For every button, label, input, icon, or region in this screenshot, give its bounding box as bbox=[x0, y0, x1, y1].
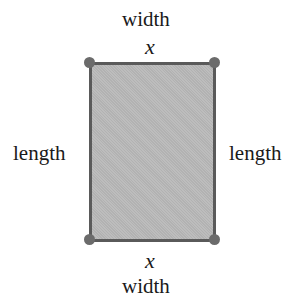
top-width-label: width bbox=[122, 9, 170, 30]
right-length-label: length bbox=[229, 143, 282, 164]
vertex-top-right bbox=[209, 57, 220, 68]
rectangle-shape bbox=[89, 62, 216, 242]
top-variable-x: x bbox=[145, 36, 155, 58]
bottom-variable-x: x bbox=[145, 250, 155, 272]
vertex-bottom-left bbox=[84, 234, 95, 245]
vertex-bottom-right bbox=[209, 234, 220, 245]
bottom-width-label: width bbox=[122, 276, 170, 297]
left-length-label: length bbox=[13, 143, 66, 164]
vertex-top-left bbox=[84, 57, 95, 68]
